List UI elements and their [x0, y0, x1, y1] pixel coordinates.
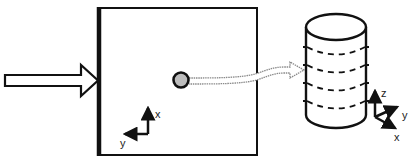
cylinder-axes-icon: z y x: [375, 87, 408, 143]
plane-axis-x-label: x: [155, 108, 161, 120]
diagram-canvas: x y z: [0, 0, 414, 159]
input-arrow-icon: [5, 65, 98, 96]
cylinder-volume: [303, 14, 369, 128]
particle-icon: [174, 73, 189, 88]
plane-axis-y-label: y: [120, 137, 126, 149]
cylinder-axis-y-label: y: [402, 109, 408, 121]
cylinder-axis-z-label: z: [381, 87, 387, 99]
cylinder-axis-x-label: x: [394, 131, 400, 143]
